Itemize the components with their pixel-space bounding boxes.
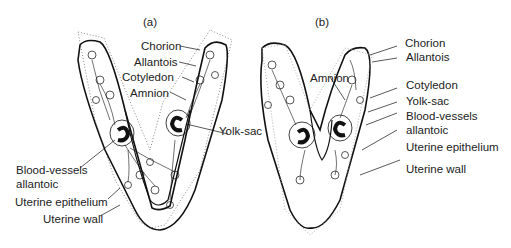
panel-a-label: (a) — [143, 16, 157, 28]
label-a-uterine-wall: Uterine wall — [43, 213, 103, 226]
label-b-allantoic: allantoic — [406, 124, 448, 137]
label-a-cotyledon: Cotyledon — [122, 71, 174, 84]
label-a-amnion: Amnion — [130, 87, 169, 100]
label-b-uterine-epithelium: Uterine epithelium — [406, 141, 499, 154]
label-a-yolk-sac: Yolk-sac — [219, 125, 262, 138]
label-b-blood-vessels: Blood-vessels — [406, 110, 478, 123]
label-b-amnion: Amnion — [310, 72, 349, 85]
label-b-chorion: Chorion — [405, 37, 445, 50]
label-b-cotyledon: Cotyledon — [406, 79, 458, 92]
label-a-chorion: Chorion — [141, 40, 181, 53]
label-a-allantoic: allantoic — [16, 178, 58, 191]
label-a-blood-vessels: Blood-vessels — [16, 164, 88, 177]
label-a-uterine-epithelium: Uterine epithelium — [15, 196, 108, 209]
label-a-allantois: Allantois — [134, 56, 177, 69]
label-b-uterine-wall: Uterine wall — [406, 163, 466, 176]
label-b-yolk-sac: Yolk-sac — [406, 95, 449, 108]
panel-b-label: (b) — [315, 16, 329, 28]
label-b-allantois: Allantois — [406, 51, 449, 64]
